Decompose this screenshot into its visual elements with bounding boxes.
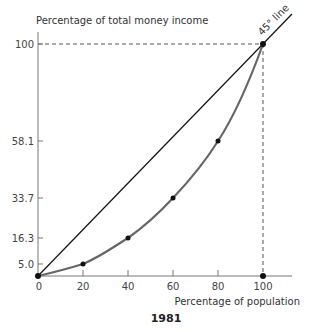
x-ticks: 0 20 40 60 80 100 [36, 270, 273, 292]
equality-line [38, 14, 292, 276]
x-axis-label: Percentage of population [175, 296, 300, 307]
x-tick-20: 20 [77, 281, 90, 292]
y-tick-16: 16.3 [12, 233, 34, 244]
y-axis-label: Percentage of total money income [36, 15, 208, 26]
y-tick-58: 58.1 [12, 136, 34, 147]
x-tick-0: 0 [36, 281, 42, 292]
chart-title: 1981 [151, 312, 182, 325]
x-tick-100: 100 [253, 281, 272, 292]
lorenz-chart: Percentage of total money income 100 58.… [0, 0, 311, 332]
x-tick-80: 80 [212, 281, 225, 292]
y-tick-100: 100 [15, 39, 34, 50]
x-tick-40: 40 [122, 281, 135, 292]
x-tick-60: 60 [167, 281, 180, 292]
y-tick-33: 33.7 [12, 193, 34, 204]
y-tick-5: 5.0 [18, 259, 34, 270]
